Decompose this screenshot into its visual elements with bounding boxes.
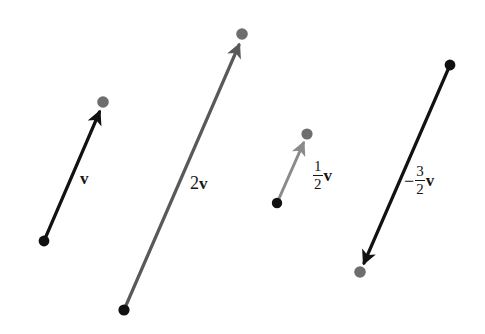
vector-2v-head-dot [236,28,248,40]
fraction-three-halves-numerator: 3 [415,164,425,179]
vector-v [39,96,109,246]
vector-label-v: v [80,170,89,187]
vector-v-tail-dot [39,236,50,247]
fraction-three-halves-denominator: 2 [415,182,425,197]
vector-v-shaft [44,112,100,241]
fraction-one-half: 1 2 [313,159,323,193]
fraction-one-half-denominator: 2 [313,177,323,192]
vector-half-v-shaft [277,143,304,203]
minus-sign: − [404,172,414,190]
vector-label-half-v: 1 2 v [313,158,332,193]
fraction-three-halves: 3 2 [415,164,425,198]
vector-label-neg-three-halves-v-symbol: v [426,172,435,189]
vector-label-neg-three-halves-v-group: − 3 2 v [404,164,434,198]
vector-half-v-tail-dot [272,198,282,208]
vector-neg-three-halves-v-tail-dot [445,60,456,71]
vector-scalar-multiples-figure: v 2v 1 2 v − 3 2 v [0,0,485,334]
vector-label-v-symbol: v [80,169,89,188]
vector-neg-three-halves-v-head-dot [354,266,366,278]
vector-2v-shaft [124,45,239,310]
vector-2v [118,28,247,315]
vector-v-head-dot [97,96,109,108]
vector-half-v [272,128,313,208]
vector-2v-tail-dot [118,304,129,315]
vector-label-2v-symbol: v [199,174,208,193]
fraction-one-half-numerator: 1 [313,159,323,174]
vector-half-v-head-dot [301,128,312,139]
vector-label-2v: 2v [190,174,208,192]
vector-label-half-v-symbol: v [324,167,333,184]
vector-label-2v-scalar: 2 [190,173,199,193]
vector-label-neg-three-halves-v: − 3 2 v [404,164,434,198]
vector-label-half-v-group: 1 2 v [313,159,332,193]
